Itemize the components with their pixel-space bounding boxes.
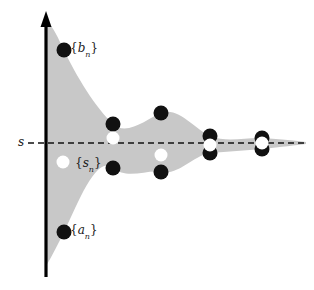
figure-canvas: [0, 0, 314, 290]
label-bn-open: {: [70, 41, 78, 55]
label-bn-close: }: [90, 41, 98, 55]
limit-label-s: s: [18, 136, 24, 148]
label-sn-open: {: [75, 156, 83, 170]
data-point-sn: [256, 137, 269, 150]
label-bn-subscript: n: [85, 50, 90, 59]
label-bn: {bn}: [70, 42, 98, 57]
sequence-convergence-figure: s {bn} {sn} {an}: [0, 0, 314, 290]
data-point-sn: [204, 139, 217, 152]
label-an-open: {: [70, 223, 78, 237]
data-point-bn: [154, 106, 169, 121]
label-an-subscript: n: [85, 232, 90, 241]
data-point-an: [154, 165, 169, 180]
axis-arrowhead-icon: [41, 11, 52, 27]
label-sn-symbol: s: [83, 156, 89, 170]
label-an-close: }: [90, 223, 98, 237]
label-sn-subscript: n: [89, 165, 94, 174]
data-point-sn: [155, 149, 168, 162]
data-point-an: [106, 161, 121, 176]
data-point-sn: [107, 132, 120, 145]
data-point-bn: [106, 117, 121, 132]
label-sn: {sn}: [75, 157, 102, 172]
label-an: {an}: [70, 224, 98, 239]
data-point-sn: [57, 156, 70, 169]
label-sn-close: }: [94, 156, 102, 170]
label-an-symbol: a: [78, 223, 85, 237]
